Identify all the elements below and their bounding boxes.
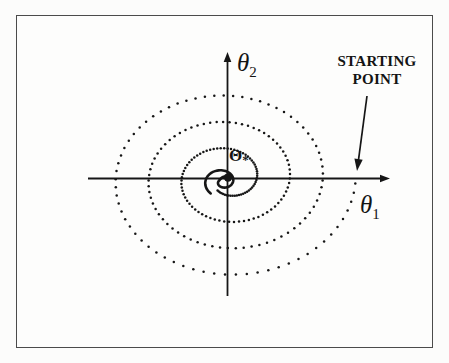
capital-theta-symbol: Θ (229, 146, 242, 165)
starting-point-line2: POINT (327, 70, 427, 88)
starting-point-arrowhead-icon (354, 159, 362, 171)
optimum-label: Θ* (229, 147, 249, 164)
spiral-dots (114, 94, 356, 276)
optimum-star: * (242, 152, 249, 167)
y-axis-label: θ2 (237, 50, 257, 75)
y-axis-arrowhead-icon (224, 52, 232, 62)
starting-point-line1: STARTING (327, 52, 427, 70)
x-axis-subscript: 1 (372, 206, 380, 222)
axes (88, 52, 390, 296)
figure-page: θ2 θ1 Θ* STARTING POINT (0, 0, 449, 363)
theta-symbol: θ (237, 49, 249, 76)
x-axis-arrowhead-icon (380, 175, 390, 183)
y-axis-subscript: 2 (249, 64, 257, 80)
starting-point-label: STARTING POINT (327, 52, 427, 88)
theta-symbol: θ (360, 191, 372, 218)
starting-point-arrow (354, 96, 367, 171)
x-axis-label: θ1 (360, 192, 380, 217)
optimum-dot (224, 173, 232, 181)
